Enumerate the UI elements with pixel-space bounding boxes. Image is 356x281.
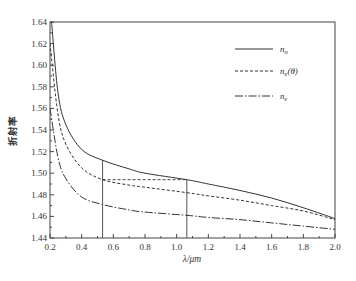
series-line-no [52,22,335,219]
y-axis-label: 折射率 [7,116,18,146]
x-tick-label: 0.8 [139,242,151,252]
x-axis-label: λ/μm [182,254,202,264]
y-tick-label: 1.62 [31,39,47,49]
legend-label: no [280,44,289,55]
x-tick-label: 1.8 [298,242,310,252]
y-tick-label: 1.46 [31,211,47,221]
x-tick-label: 0.6 [108,242,120,252]
x-tick-label: 1.0 [171,242,183,252]
plot-frame [50,22,335,238]
x-tick-label: 1.4 [234,242,246,252]
series-curves [50,22,335,229]
x-tick-label: 0.4 [76,242,88,252]
y-tick-label: 1.64 [31,17,47,27]
y-tick-label: 1.56 [31,103,47,113]
annotations [103,160,187,238]
plot-border [50,22,335,238]
y-tick-label: 1.48 [31,190,47,200]
x-axis-ticks: 0.20.40.60.81.01.21.41.61.82.0 [44,234,341,252]
refractive-index-chart: 0.20.40.60.81.01.21.41.61.82.0 1.441.461… [0,0,356,281]
y-tick-label: 1.58 [31,82,47,92]
legend: none(θ)ne [235,44,298,102]
legend-label: ne [280,91,288,102]
x-tick-label: 0.2 [44,242,55,252]
legend-label: ne(θ) [280,66,298,77]
series-line-ne [50,108,335,229]
y-tick-label: 1.44 [31,233,47,243]
y-tick-label: 1.60 [31,60,47,70]
x-tick-label: 1.6 [266,242,278,252]
x-tick-label: 1.2 [203,242,214,252]
x-tick-label: 2.0 [329,242,341,252]
y-tick-label: 1.54 [31,125,47,135]
y-tick-label: 1.52 [31,147,47,157]
y-tick-label: 1.50 [31,168,47,178]
